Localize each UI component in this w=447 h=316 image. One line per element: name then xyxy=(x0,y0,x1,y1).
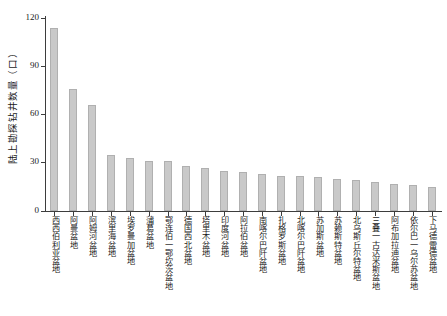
x-tick-label: 苏赖斯特盆地 xyxy=(333,216,341,265)
x-tick-label: 滨里海盆地 xyxy=(107,216,115,257)
x-tick-label: 埃罗曼加盆地 xyxy=(126,216,134,265)
bar xyxy=(296,176,304,211)
x-tick-label: 南喀尔巴阡盆地 xyxy=(258,216,266,273)
x-tick-label: 苏加斯盆地 xyxy=(314,216,322,257)
bar xyxy=(409,185,417,211)
bar xyxy=(277,176,285,211)
bar xyxy=(50,28,58,211)
y-tick-mark xyxy=(41,211,45,212)
x-tick-label: 三叠一古达米斯盆地 xyxy=(371,216,379,290)
x-tick-label: 鄂连伯一鄂坎茨盆地 xyxy=(163,216,171,290)
bar-chart: 陆上勘探钻井数量（口） 0306090120 西西伯利亚盆地阿曼盆地阿姆河盆地滨… xyxy=(0,0,447,316)
y-tick-label: 0 xyxy=(35,205,40,215)
y-axis-title-wrapper: 陆上勘探钻井数量（口） xyxy=(0,0,24,211)
bar xyxy=(201,168,209,211)
x-tick-label: 塔里木盆地 xyxy=(201,216,209,257)
bar xyxy=(126,158,134,211)
x-tick-label: 阿姆河盆地 xyxy=(88,216,96,257)
x-axis-labels: 西西伯利亚盆地阿曼盆地阿姆河盆地滨里海盆地埃罗曼加盆地蒲葛盆地鄂连伯一鄂坎茨盆地… xyxy=(45,216,441,316)
x-tick-label: 阿布加拉迪盆地 xyxy=(390,216,398,273)
bar xyxy=(220,171,228,211)
bar xyxy=(88,105,96,211)
x-tick-label: 北喀尔巴阡盆地 xyxy=(295,216,303,273)
y-tick-mark xyxy=(41,18,45,19)
bar xyxy=(352,180,360,211)
bar xyxy=(371,182,379,211)
y-tick-label: 90 xyxy=(30,60,39,70)
y-tick-label: 30 xyxy=(30,156,39,166)
bar xyxy=(107,155,115,211)
x-tick-label: 阿拉伯盆地 xyxy=(239,216,247,257)
bar xyxy=(164,161,172,211)
y-axis-title: 陆上勘探钻井数量（口） xyxy=(5,47,19,164)
x-tick-label: 依尔巴一乌尔苏盆地 xyxy=(409,216,417,290)
bar xyxy=(314,177,322,211)
x-tick-label: 扎格罗斯盆地 xyxy=(277,216,285,265)
x-tick-label: 印度河盆地 xyxy=(220,216,228,257)
x-tick-label: 西西伯利亚盆地 xyxy=(50,216,58,273)
bar xyxy=(69,89,77,211)
x-tick-label: 阿曼盆地 xyxy=(69,216,77,249)
y-tick-label: 60 xyxy=(30,108,39,118)
x-tick-label: 北乌斯丘尔特盆地 xyxy=(352,216,360,282)
bar xyxy=(258,174,266,211)
bar xyxy=(145,161,153,211)
bar xyxy=(390,184,398,211)
bar xyxy=(333,179,341,211)
bar xyxy=(428,187,436,211)
y-tick-label: 120 xyxy=(26,12,40,22)
x-tick-label: 德国西北盆地 xyxy=(182,216,190,265)
y-tick-mark xyxy=(41,114,45,115)
bar xyxy=(182,166,190,211)
x-tick-label: 蒲葛盆地 xyxy=(145,216,153,249)
y-tick-mark xyxy=(41,66,45,67)
y-tick-mark xyxy=(41,162,45,163)
bar xyxy=(239,172,247,211)
x-tick-label: 下马德雷德盆地 xyxy=(427,216,435,273)
